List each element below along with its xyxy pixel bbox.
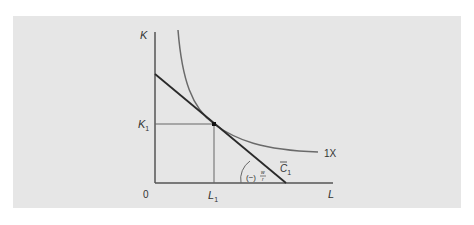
tangent-point [212, 122, 216, 126]
isoquant-curve [178, 30, 318, 152]
origin-label: 0 [143, 189, 149, 200]
y-axis-label: K [140, 29, 148, 41]
isocost-line [155, 74, 286, 183]
slope-prefix: (−) [246, 173, 256, 182]
isocost-label: C1 [280, 163, 291, 176]
k1-label: K1 [138, 118, 149, 132]
x-axis-label: L [328, 188, 334, 200]
isoquant-isocost-diagram: K L 0 K1 L1 1X C1 (−) w r [0, 0, 474, 225]
l1-label: L1 [208, 189, 218, 203]
slope-denominator: r [262, 176, 264, 182]
isoquant-label: 1X [324, 148, 337, 159]
slope-numerator: w [261, 169, 265, 175]
